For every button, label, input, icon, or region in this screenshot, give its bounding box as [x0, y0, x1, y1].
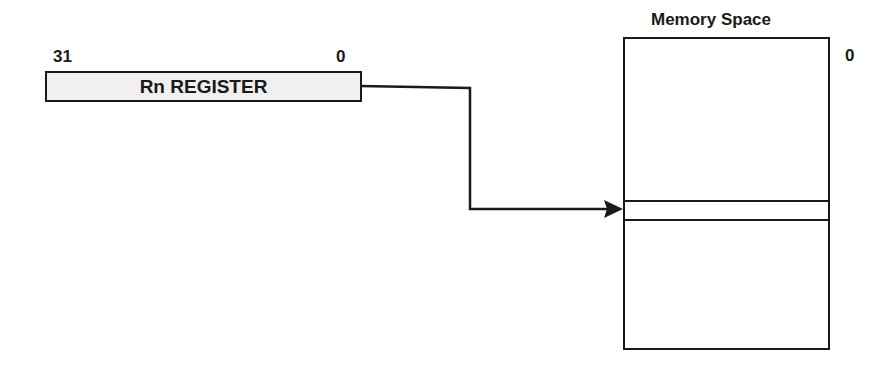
pointer-arrow-icon: [0, 0, 892, 375]
